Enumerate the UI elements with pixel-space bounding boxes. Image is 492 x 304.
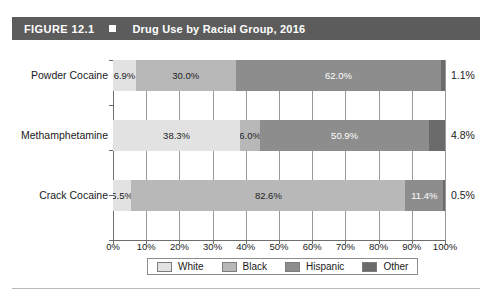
x-tick-label-90: 90% <box>402 241 421 252</box>
legend-swatch-black-icon <box>222 262 237 272</box>
figure-number: FIGURE 12.1 <box>24 23 94 35</box>
legend-label: Black <box>243 261 267 272</box>
chart-legend: White Black Hispanic Other <box>147 258 418 275</box>
x-tick-label-10: 10% <box>137 241 156 252</box>
x-tick-label-40: 40% <box>236 241 255 252</box>
outside-label-other-0: 1.1% <box>451 60 475 91</box>
outside-label-other-1: 4.8% <box>451 120 475 151</box>
legend-item-hispanic[interactable]: Hispanic <box>285 261 344 272</box>
figure-container: FIGURE 12.1 Drug Use by Racial Group, 20… <box>0 0 492 304</box>
legend-swatch-other-icon <box>362 262 377 272</box>
x-tick-label-80: 80% <box>369 241 388 252</box>
x-axis-tick-labels: 0% 10% 20% 30% 40% 50% 60% 70% 80% 90% 1… <box>113 241 453 255</box>
outside-label-other-2: 0.5% <box>451 180 475 211</box>
x-tick-label-50: 50% <box>269 241 288 252</box>
legend-swatch-white-icon <box>157 262 172 272</box>
square-bullet-icon <box>109 25 116 32</box>
x-tick-label-60: 60% <box>303 241 322 252</box>
x-tick-label-30: 30% <box>203 241 222 252</box>
chart: Powder Cocaine Methamphetamine Crack Coc… <box>0 55 492 255</box>
figure-header: FIGURE 12.1 Drug Use by Racial Group, 20… <box>12 17 480 40</box>
x-tick-label-20: 20% <box>170 241 189 252</box>
bottom-divider <box>12 288 480 289</box>
x-tick-label-0: 0% <box>106 241 120 252</box>
legend-label: Other <box>383 261 408 272</box>
legend-swatch-hispanic-icon <box>285 262 300 272</box>
legend-label: Hispanic <box>306 261 344 272</box>
legend-item-other[interactable]: Other <box>362 261 408 272</box>
x-tick-label-70: 70% <box>336 241 355 252</box>
figure-title: Drug Use by Racial Group, 2016 <box>132 23 305 35</box>
outside-value-labels: 1.1% 4.8% 0.5% <box>0 60 492 240</box>
legend-label: White <box>178 261 204 272</box>
legend-item-black[interactable]: Black <box>222 261 267 272</box>
legend-item-white[interactable]: White <box>157 261 204 272</box>
x-tick-label-100: 100% <box>433 241 457 252</box>
